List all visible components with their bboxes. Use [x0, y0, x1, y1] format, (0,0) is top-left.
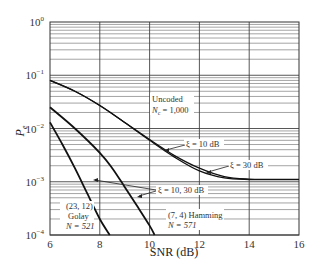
y-axis-label: Pe [13, 125, 29, 137]
label-uncoded: Uncoded [152, 94, 183, 104]
annotations: Uncoded Nc = 1,000 ξ = 10 dB ξ = 30 dB ξ… [60, 93, 268, 233]
label-hamming-n: N = 571 [167, 220, 196, 230]
y-tick-label: 100 [30, 15, 45, 28]
label-nc: Nc = 1,000 [151, 105, 189, 116]
y-tick-label: 10−1 [26, 68, 45, 81]
y-tick-label: 10−4 [26, 228, 45, 241]
label-golay-n: N = 521 [65, 221, 94, 231]
label-xi30: ξ = 30 dB [230, 160, 264, 170]
pe-vs-snr-chart: 6810121416 10010−110−210−310−4 SNR (dB) … [0, 0, 314, 274]
label-golay-code: (23, 12) [66, 201, 93, 211]
svg-text:Pe: Pe [13, 125, 29, 137]
x-axis-label: SNR (dB) [150, 245, 198, 259]
y-tick-label: 10−3 [26, 175, 45, 188]
label-golay: Golay [68, 211, 90, 221]
x-tick-label: 16 [294, 238, 306, 250]
x-tick-label: 14 [244, 238, 256, 250]
label-hamming: (7, 4) Hamming [168, 210, 223, 220]
label-xi1030: ξ = 10, 30 dB [158, 185, 204, 195]
label-xi10: ξ = 10 dB [186, 139, 220, 149]
x-tick-label: 8 [97, 238, 103, 250]
x-tick-label: 6 [47, 238, 53, 250]
